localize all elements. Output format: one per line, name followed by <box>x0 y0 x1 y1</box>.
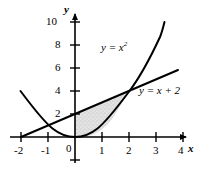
x-axis-name: x <box>188 143 194 154</box>
x-tick-label-neg1: -1 <box>41 145 50 156</box>
y-tick-label-10: 10 <box>46 16 57 27</box>
x-tick-label-1: 1 <box>99 145 105 156</box>
x-tick-label-neg2: -2 <box>14 145 23 156</box>
x-axis <box>10 132 186 142</box>
line-equation-label: y = x + 2 <box>139 85 180 96</box>
y-tick-label-4: 4 <box>55 85 61 96</box>
parabola-equation-text: y = x <box>101 41 124 53</box>
graph-figure: 10 8 6 4 2 -2 -1 0 1 2 3 4 y x y = x2 y … <box>0 0 199 177</box>
y-axis <box>70 14 80 163</box>
x-tick-label-2: 2 <box>126 145 132 156</box>
y-tick-label-8: 8 <box>55 39 61 50</box>
y-tick-label-2: 2 <box>55 108 61 119</box>
parabola-equation-label: y = x2 <box>101 42 127 53</box>
y-tick-label-6: 6 <box>55 62 61 73</box>
parabola-exponent: 2 <box>124 40 128 48</box>
x-tick-label-3: 3 <box>153 145 159 156</box>
y-axis-name: y <box>64 4 69 15</box>
x-tick-label-origin: 0 <box>66 143 72 154</box>
shaded-area-region <box>75 91 129 137</box>
x-tick-label-4: 4 <box>178 145 184 156</box>
